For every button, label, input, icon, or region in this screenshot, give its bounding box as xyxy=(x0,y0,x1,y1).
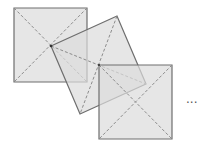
continuation-ellipsis: ··· xyxy=(186,96,197,110)
center-point xyxy=(50,45,53,48)
overlapping-squares-diagram xyxy=(0,0,208,152)
square-3 xyxy=(99,65,172,139)
center-point xyxy=(98,64,100,66)
